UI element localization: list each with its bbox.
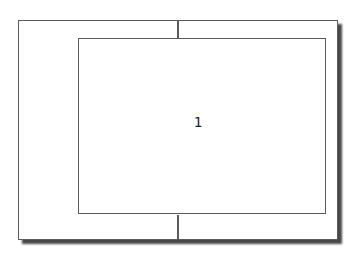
top-center-line bbox=[177, 21, 179, 39]
outer-rectangle: 1 bbox=[18, 20, 338, 240]
inner-rectangle: 1 bbox=[78, 38, 326, 214]
bottom-center-line bbox=[177, 215, 179, 240]
page-number-label: 1 bbox=[194, 115, 202, 129]
diagram-canvas: 1 bbox=[0, 0, 358, 259]
